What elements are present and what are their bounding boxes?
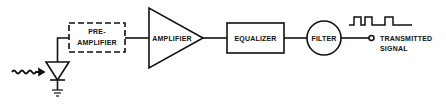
- preamp-label-line2: AMPLIFIER: [77, 39, 117, 46]
- light-signal-arrow-icon: [12, 69, 44, 75]
- output-label-line1: TRANSMITTED: [380, 35, 432, 42]
- output-terminal-icon: [369, 36, 374, 41]
- square-wave-icon: [349, 17, 412, 25]
- output-label-line2: SIGNAL: [380, 45, 408, 52]
- block-diagram: PRE- AMPLIFIER AMPLIFIER EQUALIZER FILTE…: [0, 0, 446, 107]
- photodiode-icon: [46, 62, 69, 90]
- preamp-label-line1: PRE-: [88, 28, 106, 35]
- ground-icon: [52, 90, 63, 96]
- amplifier-label: AMPLIFIER: [152, 35, 192, 42]
- equalizer-label: EQUALIZER: [234, 35, 276, 43]
- filter-label: FILTER: [311, 35, 336, 42]
- wire-detector-preamp: [58, 38, 70, 62]
